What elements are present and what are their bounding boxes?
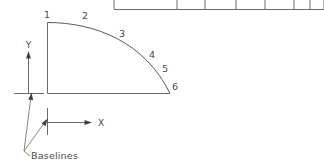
- top-table: [114, 0, 324, 10]
- baseline-label-hook: [24, 151, 30, 156]
- y-axis: Y: [14, 40, 44, 94]
- baselines-label: Baselines: [31, 150, 78, 161]
- x-axis-arrowhead: [85, 120, 93, 125]
- point-label-3: 3: [119, 28, 125, 39]
- point-labels: 1 2 3 4 5 6: [44, 9, 178, 92]
- point-label-5: 5: [162, 63, 168, 74]
- x-axis-label: X: [98, 118, 104, 128]
- table-outer-border: [114, 0, 324, 10]
- diagram-canvas: 1 2 3 4 5 6 Y X Baselines: [0, 0, 324, 165]
- point-label-2: 2: [82, 10, 88, 21]
- point-label-4: 4: [149, 49, 155, 60]
- x-axis: X: [48, 108, 105, 135]
- y-axis-label: Y: [25, 40, 32, 50]
- figure-root: 1 2 3 4 5 6 Y X Baselines: [0, 0, 324, 165]
- y-axis-arrowhead: [26, 51, 31, 59]
- baselines-annotation: Baselines: [24, 93, 78, 162]
- point-label-6: 6: [172, 81, 178, 92]
- point-label-1: 1: [44, 9, 50, 20]
